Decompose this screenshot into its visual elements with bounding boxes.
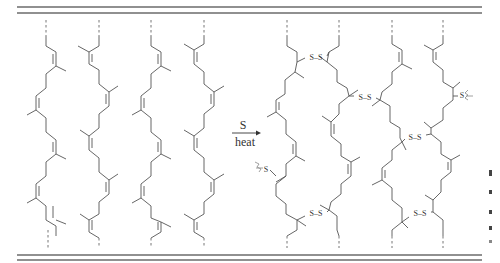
chain-right-2 [319, 20, 360, 248]
reagent-label: S [240, 118, 247, 132]
edge-marks [487, 170, 493, 260]
chain-left-4 [184, 20, 224, 248]
bridge-3: S–S [402, 133, 431, 142]
bridge-2: S–S [349, 93, 380, 102]
svg-text:S–S: S–S [310, 53, 323, 62]
chain-right-3 [372, 20, 412, 248]
svg-text:S–S: S–S [359, 93, 372, 102]
reaction-arrow: S heat [232, 118, 261, 149]
vulcanization-figure: S heat [0, 0, 500, 263]
svg-text:S: S [460, 91, 464, 100]
svg-text:S: S [264, 165, 268, 174]
svg-text:S–S: S–S [409, 133, 422, 142]
terminal-s-left: S [255, 162, 276, 176]
bridge-5: S–S [402, 209, 433, 222]
chain-right-1 [267, 20, 306, 248]
svg-text:S–S: S–S [414, 209, 427, 218]
terminal-s-right: S [453, 90, 473, 100]
left-panel [27, 20, 224, 248]
chain-left-2 [78, 20, 118, 248]
condition-label: heat [235, 135, 256, 149]
chain-left-3 [132, 20, 171, 248]
bridge-4: S–S [297, 209, 329, 220]
svg-text:S–S: S–S [310, 209, 323, 218]
right-panel: S–S S–S S–S S–S S–S S [255, 20, 473, 248]
bridge-1: S–S [297, 52, 329, 62]
chain-left-1 [27, 20, 66, 248]
